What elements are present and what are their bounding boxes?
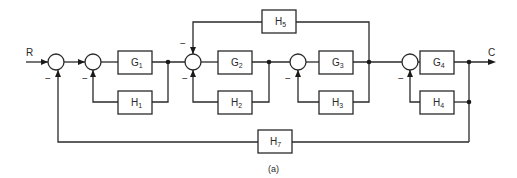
block-diagram: G1 G2 G3 G4 H1 H2 H3 (0, 0, 517, 178)
block-g3: G3 (319, 51, 353, 74)
sign-s5: − (398, 73, 404, 84)
output-label: C (488, 47, 495, 58)
feedback-loop-h7: H7 (55, 70, 469, 153)
arrow-into-s2 (78, 59, 85, 65)
sign-s3-top: − (180, 38, 186, 49)
block-g2: G2 (218, 51, 252, 74)
sign-s1: − (45, 73, 51, 84)
summing-junction-5 (402, 54, 418, 70)
input-label: R (26, 47, 33, 58)
branch-point-h4 (467, 100, 472, 105)
figure-caption: (a) (268, 164, 279, 174)
arrow-output (488, 59, 496, 65)
branch-point-g3 (367, 60, 372, 65)
block-g4: G4 (420, 51, 454, 74)
branch-point-g1 (166, 60, 171, 65)
summing-junction-1 (48, 54, 64, 70)
summing-junction-4 (290, 54, 306, 70)
sign-s3-bottom: − (182, 73, 188, 84)
block-g1: G1 (118, 51, 152, 74)
branch-point-g2 (267, 60, 272, 65)
sign-s4: − (285, 73, 291, 84)
sign-s2: − (82, 73, 88, 84)
summing-junction-3 (185, 54, 201, 70)
branch-point-output (467, 60, 472, 65)
arrow-into-s1 (41, 59, 48, 65)
summing-junction-2 (85, 54, 101, 70)
